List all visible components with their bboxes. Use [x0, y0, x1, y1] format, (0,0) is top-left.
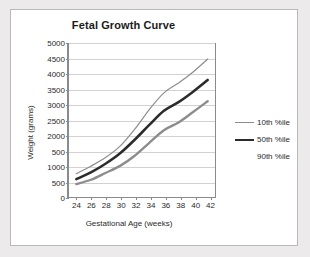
legend-item[interactable]: 90th %ile	[235, 148, 299, 165]
chart-title: Fetal Growth Curve	[11, 19, 236, 31]
y-tick-label: 0	[23, 194, 65, 203]
x-tick-mark	[181, 197, 182, 200]
figure-frame: Fetal Growth Curve Weight (grams) 050010…	[10, 9, 298, 246]
legend-item[interactable]: 10th %ile	[235, 114, 299, 131]
x-tick-mark	[211, 197, 212, 200]
x-tick-mark	[91, 197, 92, 200]
x-tick-mark	[106, 197, 107, 200]
x-tick-mark	[196, 197, 197, 200]
curve-10th-ile	[76, 101, 207, 184]
x-tick-mark	[136, 197, 137, 200]
y-tick-label: 5000	[23, 39, 65, 48]
y-tick-mark	[66, 198, 69, 199]
legend-label: 50th %ile	[257, 135, 290, 144]
growth-curves	[69, 43, 215, 197]
y-tick-label: 3000	[23, 101, 65, 110]
y-tick-label: 3500	[23, 85, 65, 94]
curve-50th-ile	[76, 80, 207, 179]
y-tick-label: 2500	[23, 116, 65, 125]
y-tick-label: 500	[23, 147, 65, 156]
fetal-growth-chart: Fetal Growth Curve Weight (grams) 050010…	[11, 10, 299, 247]
legend-line-swatch	[235, 118, 254, 128]
x-tick-mark	[76, 197, 77, 200]
legend-line-swatch	[235, 135, 254, 145]
legend-line-swatch	[235, 152, 254, 162]
y-tick-label: 1000	[23, 163, 65, 172]
x-tick-mark	[166, 197, 167, 200]
plot-area: 050010005002000250030003500400045005000 …	[67, 43, 216, 198]
y-tick-label: 4000	[23, 70, 65, 79]
plot-inner: 050010005002000250030003500400045005000 …	[69, 43, 215, 197]
x-tick-label: 42	[201, 201, 221, 210]
chart-legend: 10th %ile50th %ile90th %ile	[235, 114, 299, 165]
x-tick-mark	[121, 197, 122, 200]
x-tick-mark	[151, 197, 152, 200]
legend-item[interactable]: 50th %ile	[235, 131, 299, 148]
legend-label: 10th %ile	[257, 118, 290, 127]
y-tick-label: 2000	[23, 132, 65, 141]
x-axis-title: Gestational Age (weeks)	[49, 219, 209, 228]
y-tick-label: 4500	[23, 54, 65, 63]
y-tick-label: 500	[23, 178, 65, 187]
legend-label: 90th %ile	[257, 152, 290, 161]
